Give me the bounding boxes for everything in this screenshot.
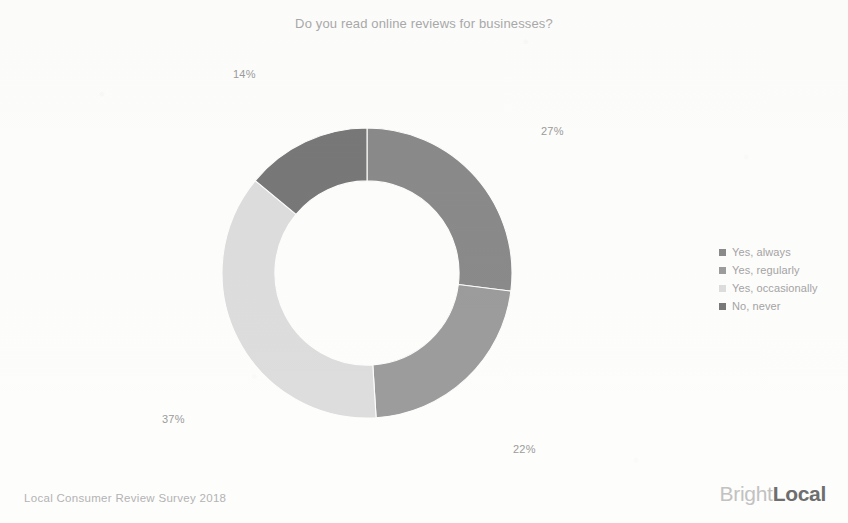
legend-item-label: Yes, always — [732, 247, 791, 258]
legend-item-yes-regularly[interactable]: Yes, regularly — [719, 261, 844, 279]
brightlocal-logo: BrightLocal — [720, 482, 826, 506]
legend-item-yes-occasionally[interactable]: Yes, occasionally — [719, 279, 844, 297]
legend-swatch-icon — [719, 249, 726, 256]
source-note: Local Consumer Review Survey 2018 — [24, 492, 226, 504]
donut-chart-svg — [222, 128, 512, 418]
legend-item-label: No, never — [732, 301, 781, 312]
legend-item-yes-always[interactable]: Yes, always — [719, 243, 844, 261]
donut-slice[interactable] — [373, 285, 511, 418]
legend-item-label: Yes, regularly — [732, 265, 800, 276]
donut-slice[interactable] — [367, 128, 512, 291]
legend-swatch-icon — [719, 285, 726, 292]
donut-chart — [222, 128, 512, 418]
brand-name-part1: Bright — [720, 482, 773, 505]
donut-slice-group — [222, 128, 512, 418]
legend-item-no-never[interactable]: No, never — [719, 297, 844, 315]
legend-item-label: Yes, occasionally — [732, 283, 818, 294]
slice-label-yes-regularly: 22% — [513, 443, 536, 455]
donut-slice[interactable] — [222, 181, 376, 418]
slice-label-yes-always: 27% — [541, 125, 564, 137]
slice-label-no-never: 14% — [233, 68, 256, 80]
chart-legend: Yes, always Yes, regularly Yes, occasion… — [719, 243, 844, 315]
legend-swatch-icon — [719, 303, 726, 310]
legend-swatch-icon — [719, 267, 726, 274]
brand-name-part2: Local — [773, 482, 826, 505]
chart-title: Do you read online reviews for businesse… — [0, 16, 848, 31]
slice-label-yes-occasionally: 37% — [162, 413, 185, 425]
